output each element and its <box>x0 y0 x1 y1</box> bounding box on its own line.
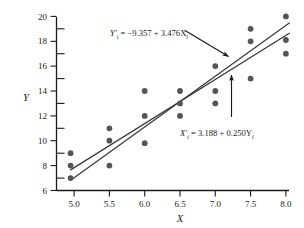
x-axis-ticks <box>74 191 286 197</box>
axis-lines <box>57 17 290 191</box>
y-tick-label: 10 <box>38 136 48 146</box>
y-tick-label: 6 <box>43 186 48 196</box>
data-point <box>177 88 183 94</box>
x-axis-tick-labels: 5.0 5.5 6.0 6.5 7.0 7.5 8.0 <box>68 199 292 209</box>
y-tick-label: 8 <box>43 161 48 171</box>
data-point <box>107 163 113 169</box>
eq1-body-subscript: i <box>186 34 188 40</box>
x-tick-label: 8.0 <box>280 199 292 209</box>
y-tick-label: 20 <box>38 12 48 22</box>
data-point <box>248 38 254 44</box>
data-point <box>107 138 113 144</box>
y-tick-label: 14 <box>38 86 48 96</box>
y-tick-label: 18 <box>38 36 48 46</box>
data-point <box>212 101 218 107</box>
data-point <box>142 113 148 119</box>
equation-label-x-on-y: X′i = 3.188 + 0.250Yi <box>180 122 254 140</box>
data-point <box>142 88 148 94</box>
y-axis-major-ticks <box>51 16 57 190</box>
scatter-plot-figure: 6 8 10 12 14 16 18 20 5.0 5.5 6.0 6.5 7.… <box>0 0 304 228</box>
eq2-body: = 3.188 + 0.250Y <box>189 128 252 138</box>
data-point <box>283 14 289 20</box>
x-tick-label: 5.5 <box>104 199 116 209</box>
data-point <box>212 88 218 94</box>
x-tick-label: 7.5 <box>245 199 257 209</box>
x-tick-label: 5.0 <box>68 199 80 209</box>
data-point <box>283 51 289 57</box>
y-axis-minor-ticks <box>57 29 65 178</box>
x-tick-label: 6.0 <box>139 199 151 209</box>
y-axis-title: Y <box>23 92 30 103</box>
data-point <box>68 150 74 156</box>
eq2-body-subscript: i <box>252 134 254 140</box>
y-tick-label: 12 <box>38 111 47 121</box>
x-tick-label: 7.0 <box>210 199 222 209</box>
y-tick-label: 16 <box>38 61 48 71</box>
y-axis-tick-labels: 6 8 10 12 14 16 18 20 <box>38 12 48 196</box>
data-point <box>177 101 183 107</box>
x-tick-label: 6.5 <box>174 199 186 209</box>
annotation-arrow-y-on-x <box>185 31 229 57</box>
data-point <box>68 175 74 181</box>
data-point <box>177 113 183 119</box>
equation-label-y-on-x: Y′i = −9.357 + 3.476Xi <box>110 22 188 40</box>
data-point <box>212 63 218 69</box>
data-point <box>142 140 148 146</box>
data-point <box>107 125 113 131</box>
data-point <box>248 76 254 82</box>
data-point <box>283 37 289 43</box>
eq1-body: = −9.357 + 3.476X <box>118 28 186 38</box>
data-point <box>68 163 74 169</box>
data-point <box>248 26 254 32</box>
x-axis-title: X <box>176 213 184 224</box>
